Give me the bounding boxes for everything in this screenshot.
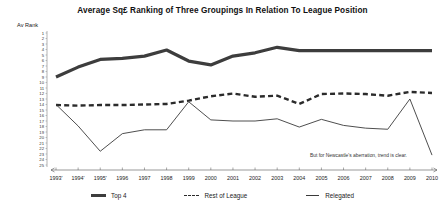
y-axis-tick-label: 9 [42,75,45,80]
x-axis-tick-label: 2000 [205,175,217,181]
x-axis-tick-label: 2009 [404,175,416,181]
legend-label-relegated: Relegated [325,192,354,199]
legend-swatch-solid-thin-icon [305,192,320,199]
x-axis-tick-label: 1994' [72,175,85,181]
x-axis-tick-label: 2001 [227,175,239,181]
x-axis-tick-label: 1995' [94,175,107,181]
y-axis-tick-label: 13 [39,97,44,102]
legend-label-top-4: Top 4 [111,192,126,199]
x-axis-tick-label: 2004 [293,175,305,181]
y-axis-tick-label: 11 [40,86,45,91]
legend-swatch-dashed-icon [184,192,199,199]
y-axis-tick-label: 24 [39,157,44,162]
x-axis: 1993'1994'1995'1996199719981999200020012… [49,168,438,182]
x-axis-tick-label: 2010 [426,175,438,181]
y-axis-tick-label: 14 [39,102,44,107]
y-axis-tick-label: 3 [42,42,45,47]
y-axis-tick-label: 12 [39,91,44,96]
y-axis-tick-label: 15 [39,108,44,113]
series-line-rest-of-league [56,92,432,106]
x-axis-tick-label: 1997 [138,175,150,181]
plot-area: 1234567891011121314151617181920212223242… [0,0,445,215]
chart-container: Average Sq£ Ranking of Three Groupings I… [0,0,445,215]
x-axis-tick-label: 1993' [49,175,62,181]
y-axis-tick-label: 25 [39,163,44,168]
y-axis-tick-label: 23 [39,152,44,157]
legend-item-relegated[interactable]: Relegated [305,192,354,199]
y-axis-tick-label: 17 [39,119,44,124]
y-axis-tick-label: 7 [42,64,45,69]
x-axis-tick-label: 2006 [338,175,350,181]
chart-annotation: But for Newcastle's aberration, trend is… [310,153,407,158]
legend-item-rest-of-league[interactable]: Rest of League [184,192,247,199]
y-axis-tick-label: 8 [42,69,45,74]
chart-legend: Top 4 Rest of League Relegated [0,192,445,212]
x-axis-tick-label: 2005 [315,175,327,181]
y-axis-tick-label: 1 [42,31,45,36]
legend-label-rest-of-league: Rest of League [204,192,247,199]
legend-item-top-4[interactable]: Top 4 [91,192,126,199]
x-axis-tick-label: 2003 [271,175,283,181]
y-axis-tick-label: 2 [42,36,45,41]
series-line-top-4 [56,47,432,77]
y-axis-tick-label: 21 [39,141,44,146]
series-line-relegated [56,99,432,155]
x-axis-tick-label: 2002 [249,175,261,181]
legend-swatch-solid-thick-icon [91,192,106,199]
y-axis-tick-label: 6 [42,58,45,63]
y-axis-tick-label: 19 [39,130,44,135]
y-axis-tick-label: 5 [42,53,45,58]
x-axis-tick-label: 1998 [161,175,173,181]
y-axis-tick-label: 18 [39,124,44,129]
x-axis-tick-label: 1999 [183,175,195,181]
y-axis-tick-label: 4 [42,47,45,52]
y-axis-tick-label: 16 [39,113,44,118]
y-axis: 1234567891011121314151617181920212223242… [39,31,47,168]
x-axis-tick-label: 1996 [116,175,128,181]
y-axis-tick-label: 10 [39,80,44,85]
x-axis-tick-label: 2008 [382,175,394,181]
y-axis-tick-label: 22 [39,146,44,151]
series-lines [56,47,432,155]
y-axis-tick-label: 20 [39,135,44,140]
x-axis-tick-label: 2007 [360,175,372,181]
